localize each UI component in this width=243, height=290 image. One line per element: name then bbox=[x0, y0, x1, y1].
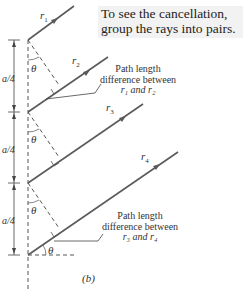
callout-line-2: group the rays into pairs. bbox=[101, 21, 243, 36]
path-difference-note-1: Path length difference between r₁ and r₂ bbox=[88, 64, 188, 96]
ray-label-r1: r1 bbox=[40, 9, 48, 24]
spacing-label: a/4 bbox=[2, 73, 15, 84]
ray-label-r3: r3 bbox=[106, 101, 114, 116]
callout-box: To see the cancellation, group the rays … bbox=[98, 6, 243, 38]
angle-label: θ bbox=[31, 133, 36, 145]
callout-line-1: To see the cancellation, bbox=[101, 6, 243, 21]
ray-r3 bbox=[28, 104, 143, 183]
spacing-label: a/4 bbox=[2, 215, 15, 226]
spacing-label: a/4 bbox=[2, 144, 15, 155]
ray-label-r2: r2 bbox=[72, 54, 80, 69]
path-difference-note-2: Path length difference between r₃ and r₄ bbox=[90, 211, 190, 243]
ray-label-r4: r4 bbox=[141, 150, 149, 165]
angle-label: θ bbox=[48, 244, 53, 256]
angle-label: θ bbox=[31, 62, 36, 74]
panel-label: (b) bbox=[82, 272, 95, 284]
angle-label: θ bbox=[31, 204, 36, 216]
diffraction-diagram bbox=[0, 0, 243, 290]
ray-r1 bbox=[28, 6, 74, 40]
arrow-icon bbox=[119, 116, 126, 122]
